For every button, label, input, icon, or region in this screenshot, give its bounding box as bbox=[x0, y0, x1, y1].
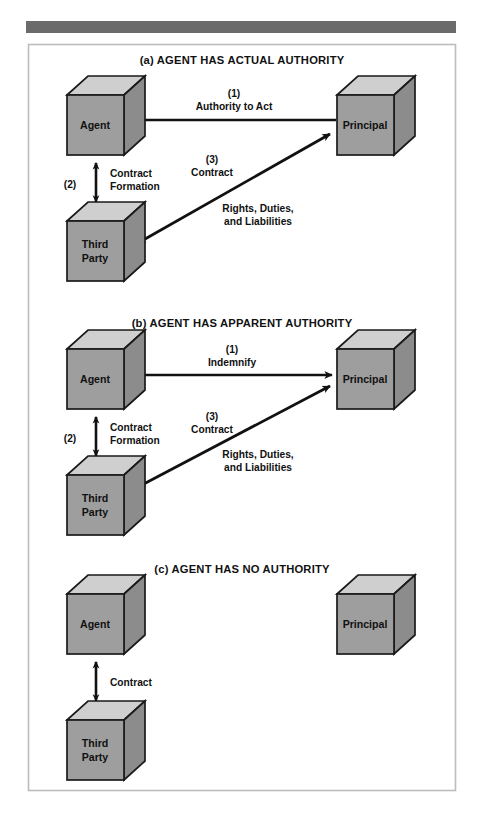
cube-agent-label: Agent bbox=[80, 119, 110, 131]
cube-principal: Principal bbox=[337, 76, 415, 155]
cube-third-party-front bbox=[67, 221, 124, 281]
cube-third-party-front bbox=[67, 475, 124, 535]
panel-a-flow1-label: Authority to Act bbox=[196, 101, 273, 112]
panel-c-title: (c) AGENT HAS NO AUTHORITY bbox=[154, 563, 330, 575]
panel-c-flow-label: Contract bbox=[110, 677, 152, 688]
panel-b-flow1-number: (1) bbox=[226, 344, 238, 355]
cube-third-party-label-line1: Third bbox=[82, 238, 108, 250]
agency-authority-diagram: (a) AGENT HAS ACTUAL AUTHORITY (1) Autho… bbox=[0, 0, 484, 820]
cube-agent-label: Agent bbox=[80, 618, 110, 630]
cube-agent: Agent bbox=[67, 76, 145, 155]
panel-b-flow1-label: Indemnify bbox=[208, 357, 256, 368]
cube-third-party-label-line1: Third bbox=[82, 737, 108, 749]
cube-third-party-front bbox=[67, 720, 124, 780]
cube-third-party: Third Party bbox=[67, 701, 145, 780]
cube-agent-label: Agent bbox=[80, 373, 110, 385]
cube-third-party-label-line1: Third bbox=[82, 492, 108, 504]
figure-frame bbox=[29, 45, 456, 791]
panel-a-flow2-label-line2: Formation bbox=[110, 181, 160, 192]
cube-agent: Agent bbox=[67, 575, 145, 654]
panel-b-flow3-sub1: Rights, Duties, bbox=[222, 449, 293, 460]
panel-b-flow2-label-line2: Formation bbox=[110, 435, 160, 446]
panel-b-flow3-number: (3) bbox=[206, 411, 218, 422]
cube-third-party: Third Party bbox=[67, 202, 145, 281]
panel-a-flow2-number: (2) bbox=[64, 179, 76, 190]
cube-principal: Principal bbox=[337, 575, 415, 654]
cube-third-party-label-line2: Party bbox=[82, 751, 109, 763]
cube-principal-label: Principal bbox=[343, 618, 388, 630]
panel-a-flow1-number: (1) bbox=[228, 88, 240, 99]
cube-third-party-label-line2: Party bbox=[82, 252, 109, 264]
panel-a-flow3-sub2: and Liabilities bbox=[224, 216, 292, 227]
header-rule bbox=[26, 21, 456, 33]
cube-principal: Principal bbox=[337, 330, 415, 409]
panel-a-flow3-label: Contract bbox=[191, 167, 233, 178]
panel-a-flow3-number: (3) bbox=[206, 154, 218, 165]
panel-a-flow3-sub1: Rights, Duties, bbox=[222, 203, 293, 214]
cube-principal-label: Principal bbox=[343, 373, 388, 385]
panel-a-flow2-label-line1: Contract bbox=[110, 168, 152, 179]
cube-third-party-label-line2: Party bbox=[82, 506, 109, 518]
panel-b-flow3-label: Contract bbox=[191, 424, 233, 435]
panel-b-title: (b) AGENT HAS APPARENT AUTHORITY bbox=[132, 317, 353, 329]
panel-a-title: (a) AGENT HAS ACTUAL AUTHORITY bbox=[140, 54, 345, 66]
panel-b-flow2-number: (2) bbox=[64, 433, 76, 444]
panel-b-flow2-label-line1: Contract bbox=[110, 422, 152, 433]
cube-agent: Agent bbox=[67, 330, 145, 409]
panel-b-flow3-sub2: and Liabilities bbox=[224, 462, 292, 473]
figure-root: (a) AGENT HAS ACTUAL AUTHORITY (1) Autho… bbox=[0, 0, 484, 820]
cube-principal-label: Principal bbox=[343, 119, 388, 131]
cube-third-party: Third Party bbox=[67, 456, 145, 535]
